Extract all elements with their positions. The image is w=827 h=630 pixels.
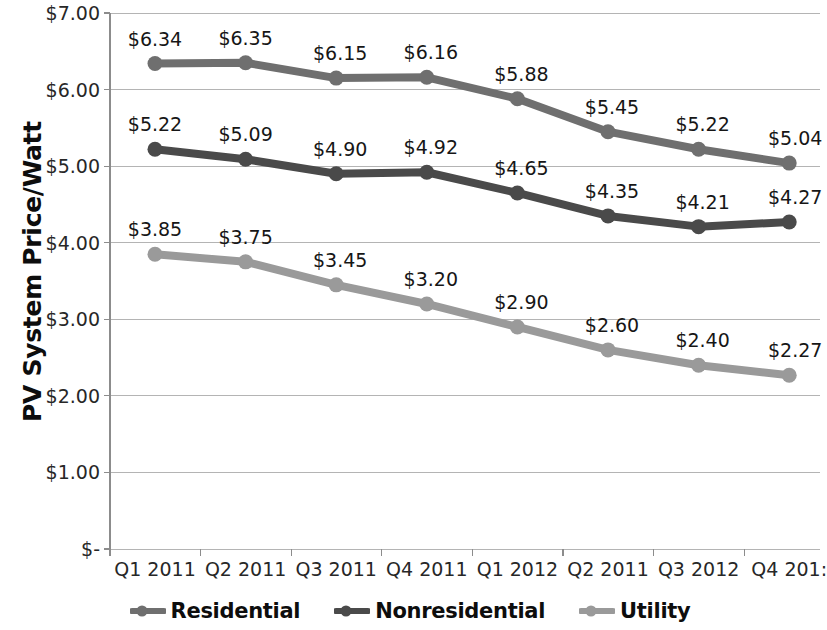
- data-point-nonresidential-0: [148, 142, 163, 157]
- x-tick-label-3: Q4 2011: [386, 558, 467, 580]
- data-point-utility-3: [419, 296, 434, 311]
- x-tick-label-1: Q2 2011: [205, 558, 286, 580]
- data-point-utility-6: [691, 358, 706, 373]
- x-tick-label-4: Q1 2012: [477, 558, 558, 580]
- data-point-residential-3: [419, 70, 434, 85]
- data-point-nonresidential-7: [782, 215, 797, 230]
- data-label-utility-4: $2.90: [494, 291, 548, 313]
- data-point-residential-0: [148, 56, 163, 71]
- data-point-residential-7: [782, 156, 797, 171]
- x-tick-label-6: Q3 2012: [658, 558, 739, 580]
- data-point-utility-2: [329, 277, 344, 292]
- data-point-nonresidential-5: [601, 208, 616, 223]
- data-label-nonresidential-4: $4.65: [494, 157, 548, 179]
- chart-legend: ResidentialNonresidentialUtility: [0, 596, 820, 626]
- data-point-nonresidential-2: [329, 166, 344, 181]
- legend-item-nonresidential[interactable]: Nonresidential: [334, 599, 545, 623]
- data-label-utility-7: $2.27: [768, 339, 822, 361]
- data-point-utility-7: [782, 368, 797, 383]
- data-label-nonresidential-1: $5.09: [218, 123, 272, 145]
- data-label-residential-1: $6.35: [218, 27, 272, 49]
- x-tick-label-0: Q1 2011: [114, 558, 195, 580]
- legend-item-residential[interactable]: Residential: [130, 599, 301, 623]
- data-label-residential-3: $6.16: [404, 41, 458, 63]
- data-label-utility-6: $2.40: [675, 329, 729, 351]
- data-point-utility-4: [510, 319, 525, 334]
- legend-item-utility[interactable]: Utility: [579, 599, 690, 623]
- data-point-residential-1: [238, 55, 253, 70]
- data-label-utility-0: $3.85: [128, 218, 182, 240]
- x-axis-tick-labels: Q1 2011Q2 2011Q3 2011Q4 2011Q1 2012Q2 20…: [0, 558, 820, 592]
- data-point-utility-5: [601, 342, 616, 357]
- legend-marker-utility-icon: [579, 605, 615, 617]
- x-tick-label-5: Q2 2011: [567, 558, 648, 580]
- data-label-residential-4: $5.88: [494, 63, 548, 85]
- data-label-nonresidential-0: $5.22: [128, 113, 182, 135]
- data-label-nonresidential-7: $4.27: [768, 186, 822, 208]
- data-point-nonresidential-4: [510, 185, 525, 200]
- legend-marker-residential-icon: [130, 605, 166, 617]
- data-label-utility-1: $3.75: [218, 226, 272, 248]
- data-label-utility-3: $3.20: [404, 268, 458, 290]
- data-label-utility-5: $2.60: [585, 314, 639, 336]
- data-point-utility-0: [148, 247, 163, 262]
- series-line-utility: [155, 254, 789, 375]
- data-label-nonresidential-5: $4.35: [585, 180, 639, 202]
- data-point-nonresidential-6: [691, 219, 706, 234]
- data-label-residential-0: $6.34: [128, 28, 182, 50]
- legend-label-residential: Residential: [171, 599, 301, 623]
- data-label-residential-6: $5.22: [675, 113, 729, 135]
- data-label-nonresidential-2: $4.90: [313, 138, 367, 160]
- data-point-residential-5: [601, 124, 616, 139]
- x-tick-label-7: Q4 201:: [751, 558, 827, 580]
- data-point-nonresidential-3: [419, 165, 434, 180]
- data-label-residential-5: $5.45: [585, 96, 639, 118]
- data-label-utility-2: $3.45: [313, 249, 367, 271]
- legend-label-utility: Utility: [620, 599, 690, 623]
- data-label-residential-7: $5.04: [768, 127, 822, 149]
- data-label-residential-2: $6.15: [313, 42, 367, 64]
- data-point-residential-4: [510, 91, 525, 106]
- data-label-nonresidential-3: $4.92: [404, 136, 458, 158]
- legend-label-nonresidential: Nonresidential: [375, 599, 545, 623]
- legend-marker-nonresidential-icon: [334, 605, 370, 617]
- data-point-residential-6: [691, 142, 706, 157]
- data-point-utility-1: [238, 254, 253, 269]
- data-point-residential-2: [329, 71, 344, 86]
- data-point-nonresidential-1: [238, 152, 253, 167]
- data-label-nonresidential-6: $4.21: [675, 191, 729, 213]
- x-tick-label-2: Q3 2011: [295, 558, 376, 580]
